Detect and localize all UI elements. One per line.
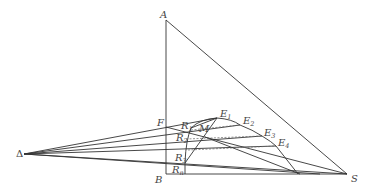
- label-B: B: [154, 174, 162, 185]
- binodal-curve-raffinate: [185, 128, 191, 174]
- label-A: A: [159, 9, 167, 20]
- diagram-canvas: A B S Δ F M E1 E2 E3 E4 R1 R2 R3 Rn: [0, 0, 371, 190]
- extraction-triangle-diagram: A B S Δ F M E1 E2 E3 E4 R1 R2 R3 Rn: [0, 0, 371, 190]
- label-E2: E2: [242, 115, 254, 128]
- label-Rn: Rn: [171, 164, 184, 177]
- label-M: M: [198, 123, 210, 134]
- label-delta: Δ: [16, 148, 23, 159]
- label-F: F: [156, 117, 165, 128]
- label-E4: E4: [277, 137, 289, 150]
- label-S: S: [351, 173, 358, 184]
- label-R2: R2: [175, 132, 188, 145]
